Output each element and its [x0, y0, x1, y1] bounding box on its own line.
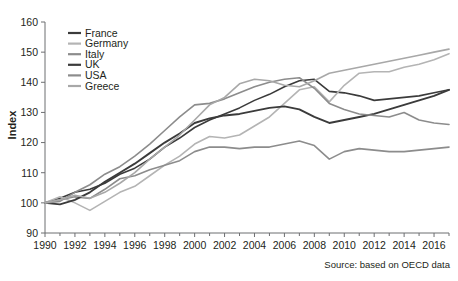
- x-tick-label: 1990: [33, 239, 57, 251]
- series-line-france: [45, 79, 449, 203]
- y-tick-label: 100: [20, 197, 38, 209]
- y-tick-label: 130: [20, 106, 38, 118]
- x-tick-label: 2006: [273, 239, 297, 251]
- x-tick-label: 2004: [243, 239, 267, 251]
- y-tick-label: 110: [21, 167, 38, 179]
- y-axis: 90100110120130140150160: [20, 16, 45, 239]
- x-tick-label: 2014: [392, 239, 416, 251]
- x-tick-label: 2010: [333, 239, 357, 251]
- x-tick-label: 2000: [183, 239, 207, 251]
- chart-container: 90100110120130140150160 1990199219941996…: [0, 0, 458, 281]
- y-tick-label: 140: [20, 76, 38, 88]
- x-tick-label: 1992: [63, 239, 87, 251]
- x-tick-label: 1998: [153, 239, 177, 251]
- x-tick-label: 2012: [363, 239, 387, 251]
- x-tick-label: 2016: [422, 239, 446, 251]
- x-tick-label: 2008: [303, 239, 327, 251]
- line-chart: 90100110120130140150160 1990199219941996…: [0, 0, 458, 281]
- y-tick-label: 120: [20, 136, 38, 148]
- x-axis: 1990199219941996199820002002200420062008…: [33, 233, 449, 251]
- legend-label-greece: Greece: [85, 80, 120, 92]
- chart-legend: FranceGermanyItalyUKUSAGreece: [68, 27, 129, 92]
- y-tick-label: 150: [20, 46, 38, 58]
- y-tick-label: 160: [20, 16, 38, 28]
- x-tick-label: 2002: [213, 239, 237, 251]
- y-tick-label: 90: [26, 227, 38, 239]
- series-line-italy: [45, 141, 449, 203]
- x-tick-label: 1996: [123, 239, 147, 251]
- series-line-usa: [45, 78, 449, 203]
- source-note: Source: based on OECD data: [324, 259, 450, 270]
- y-axis-title: Index: [6, 110, 18, 140]
- x-tick-label: 1994: [93, 239, 117, 251]
